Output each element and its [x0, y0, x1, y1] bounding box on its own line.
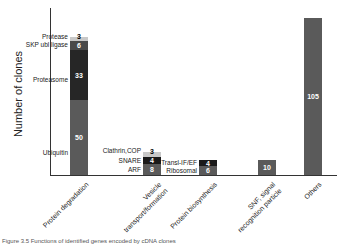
value-label: 10 — [263, 164, 271, 171]
x-axis — [50, 175, 337, 176]
segment-snf: 10 — [258, 160, 276, 175]
value-label: 50 — [75, 134, 83, 141]
figure-caption: Figure 3.5 Functions of identified genes… — [2, 238, 176, 244]
label-skp: SKP ubl ligase — [10, 41, 68, 48]
value-label: 6 — [206, 167, 210, 174]
bar-others: 105 — [304, 18, 322, 175]
label-arf: ARF — [90, 166, 141, 173]
label-protease: Protease — [20, 33, 68, 40]
value-label: 3 — [150, 148, 154, 155]
bar-protein-biosynthesis: 6 4 — [199, 160, 217, 175]
label-snare: SNARE — [90, 157, 141, 164]
value-label: 4 — [206, 160, 210, 167]
label-ribosomal: Ribosomal — [150, 167, 197, 174]
segment-clathrin: 3 — [143, 152, 161, 157]
value-label: 105 — [307, 93, 319, 100]
segment-ubiquitin: 50 — [70, 100, 88, 175]
label-ubiquitin: Ubiquitin — [10, 149, 68, 156]
segment-others: 105 — [304, 18, 322, 175]
segment-protease: 3 — [70, 37, 88, 41]
x-label-snf: SNF, signal recognition particle — [229, 180, 283, 234]
x-label-text: SNF, signal recognition particle — [237, 181, 284, 234]
label-clathrin: Clathrin,COP — [90, 147, 141, 154]
x-label-vesicle: Vesicle transport/formation — [115, 180, 169, 234]
x-label-text: Vesicle transport/formation — [123, 181, 169, 234]
bar-protein-degradation: 50 33 6 3 — [70, 37, 88, 175]
value-label: 3 — [77, 33, 81, 40]
segment-ribosomal: 6 — [199, 166, 217, 175]
segment-transl: 4 — [199, 160, 217, 166]
x-label-protein-degradation: Protein degradation — [41, 180, 91, 230]
value-label: 6 — [77, 42, 81, 49]
x-label-others: Others — [302, 180, 323, 201]
label-proteasome: Proteasome — [10, 76, 68, 83]
label-transl: Transl-IF/EF — [150, 159, 197, 166]
x-label-protein-biosynthesis: Protein biosynthesis — [169, 180, 220, 231]
segment-proteasome: 33 — [70, 50, 88, 100]
segment-skp: 6 — [70, 41, 88, 50]
y-axis-label: Number of clones — [12, 34, 24, 154]
bar-snf: 10 — [258, 160, 276, 175]
value-label: 33 — [75, 72, 83, 79]
